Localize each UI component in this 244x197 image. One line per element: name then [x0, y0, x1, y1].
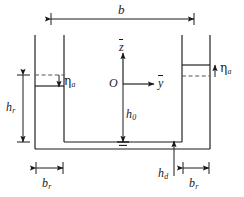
label-duct-height: hd [158, 167, 168, 181]
figure-canvas: b hr ηa ηa z y O h0 hd br br [0, 0, 244, 197]
label-width-total: b [118, 3, 125, 16]
label-riser-height: hr [6, 101, 15, 115]
label-axis-y: y [158, 77, 163, 89]
label-riser-width-left: br [42, 177, 51, 191]
diagram-vector-layer [0, 0, 244, 197]
label-riser-width-right: br [189, 177, 198, 191]
label-axis-z: z [119, 41, 124, 53]
label-eta-right: ηa [220, 62, 231, 76]
datum-ground-symbol [117, 142, 129, 145]
label-depth-center: h0 [126, 108, 136, 122]
label-eta-left: ηa [64, 75, 75, 89]
label-origin: O [109, 77, 118, 89]
